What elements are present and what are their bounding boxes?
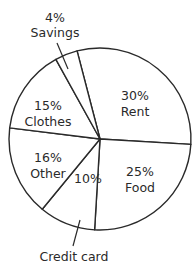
pct-label-other: 16% — [34, 150, 62, 165]
name-label-credit-card: Credit card — [40, 249, 109, 264]
pct-label-rent: 30% — [121, 88, 149, 103]
pie-chart: 30%Rent25%Food10%16%Other15%Clothes4%Sav… — [0, 0, 195, 268]
pie-slices — [9, 48, 191, 230]
pct-label-food: 25% — [126, 164, 154, 179]
pct-label-savings: 4% — [45, 10, 65, 25]
name-label-rent: Rent — [121, 104, 150, 119]
name-label-clothes: Clothes — [25, 114, 72, 129]
pct-label-clothes: 15% — [34, 98, 62, 113]
name-label-savings: Savings — [31, 25, 80, 40]
pct-label-credit-card: 10% — [74, 171, 102, 186]
name-label-other: Other — [30, 166, 66, 181]
name-label-food: Food — [125, 180, 155, 195]
